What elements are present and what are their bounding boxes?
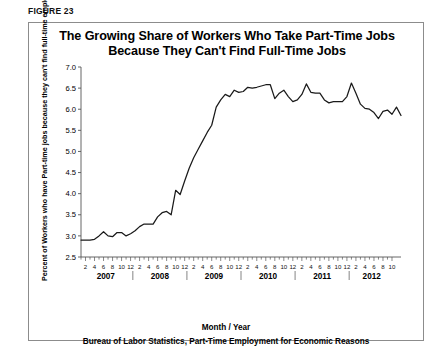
svg-text:2: 2 xyxy=(84,263,88,270)
svg-text:12: 12 xyxy=(344,263,351,270)
svg-text:6: 6 xyxy=(210,263,214,270)
plot-area-wrapper: Percent of Workers who have Part-time jo… xyxy=(29,63,423,308)
svg-text:6: 6 xyxy=(102,263,106,270)
svg-text:10: 10 xyxy=(280,263,287,270)
svg-text:2: 2 xyxy=(138,263,142,270)
svg-text:8: 8 xyxy=(273,263,277,270)
chart-title-line-2: Because They Can't Find Full-Time Jobs xyxy=(39,44,415,59)
svg-text:8: 8 xyxy=(165,263,169,270)
svg-text:2007: 2007 xyxy=(97,272,116,281)
svg-text:2009: 2009 xyxy=(205,272,224,281)
svg-text:3.0: 3.0 xyxy=(65,232,76,241)
svg-text:6.0: 6.0 xyxy=(65,105,76,114)
svg-text:4: 4 xyxy=(363,263,367,270)
svg-text:12: 12 xyxy=(181,263,188,270)
chart-title-line-1: The Growing Share of Workers Who Take Pa… xyxy=(39,29,415,44)
svg-text:4: 4 xyxy=(255,263,259,270)
y-axis-title: Percent of Workers who have Part-time jo… xyxy=(33,81,55,281)
figure-container: FIGURE 23 The Growing Share of Workers W… xyxy=(0,0,445,356)
svg-text:6: 6 xyxy=(264,263,268,270)
svg-text:4.5: 4.5 xyxy=(65,168,76,177)
svg-text:2012: 2012 xyxy=(363,272,382,281)
svg-text:2.5: 2.5 xyxy=(65,253,76,262)
svg-text:2: 2 xyxy=(354,263,358,270)
svg-text:4: 4 xyxy=(147,263,151,270)
svg-text:6: 6 xyxy=(318,263,322,270)
svg-text:4: 4 xyxy=(309,263,313,270)
svg-text:6.5: 6.5 xyxy=(65,84,76,93)
svg-text:2010: 2010 xyxy=(259,272,278,281)
svg-text:2: 2 xyxy=(246,263,250,270)
svg-text:5.5: 5.5 xyxy=(65,126,76,135)
svg-text:10: 10 xyxy=(118,263,125,270)
line-chart-plot: 2.53.03.54.04.55.05.56.06.57.02468101220… xyxy=(55,63,405,313)
svg-text:8: 8 xyxy=(381,263,385,270)
svg-text:12: 12 xyxy=(127,263,134,270)
svg-text:5.0: 5.0 xyxy=(65,147,76,156)
svg-text:2: 2 xyxy=(300,263,304,270)
svg-text:6: 6 xyxy=(156,263,160,270)
figure-number-label: FIGURE 23 xyxy=(28,6,74,16)
x-axis-title: Month / Year xyxy=(29,323,423,332)
svg-text:10: 10 xyxy=(335,263,342,270)
figure-frame: The Growing Share of Workers Who Take Pa… xyxy=(28,22,424,341)
svg-text:6: 6 xyxy=(372,263,376,270)
svg-text:2: 2 xyxy=(192,263,196,270)
svg-text:2011: 2011 xyxy=(313,272,331,281)
svg-text:10: 10 xyxy=(172,263,179,270)
svg-text:4: 4 xyxy=(201,263,205,270)
svg-text:8: 8 xyxy=(219,263,223,270)
svg-text:12: 12 xyxy=(289,263,296,270)
svg-text:8: 8 xyxy=(111,263,115,270)
svg-text:4: 4 xyxy=(93,263,97,270)
svg-text:2008: 2008 xyxy=(151,272,170,281)
svg-text:10: 10 xyxy=(389,263,396,270)
svg-text:3.5: 3.5 xyxy=(65,210,76,219)
chart-title: The Growing Share of Workers Who Take Pa… xyxy=(39,29,415,59)
y-axis-title-text: Percent of Workers who have Part-time jo… xyxy=(40,81,49,281)
svg-text:7.0: 7.0 xyxy=(65,63,76,72)
source-note: Bureau of Labor Statistics, Part-Time Em… xyxy=(29,337,423,346)
svg-text:8: 8 xyxy=(327,263,331,270)
svg-text:12: 12 xyxy=(235,263,242,270)
svg-text:10: 10 xyxy=(226,263,233,270)
svg-text:4.0: 4.0 xyxy=(65,189,76,198)
